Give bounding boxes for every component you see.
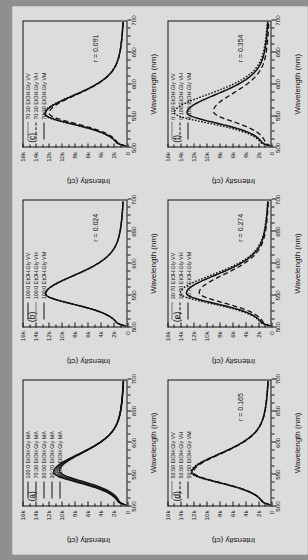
- y-tick-mark: [167, 502, 168, 507]
- y-tick-mark: [81, 144, 82, 147]
- legend-label: 50:50 EtOH:Gly VM: [185, 431, 192, 478]
- y-tick-label: 16k: [19, 331, 26, 341]
- panel-d-legend: 50:50 EtOH:Gly VV50:50 EtOH:Gly VH50:50 …: [169, 431, 192, 498]
- panel-c-xtick-labels: 500550600650700: [129, 20, 139, 147]
- y-tick-label: 14k: [32, 331, 39, 341]
- y-tick-mark: [23, 143, 24, 148]
- spectrum-curve: [46, 201, 126, 326]
- panel-b: Intensity (ct) 02k4k6k8k10k12k14k16k (b)…: [17, 191, 162, 370]
- spectrum-curve: [180, 201, 271, 326]
- y-tick-label: 16k: [164, 331, 171, 341]
- y-tick-mark: [29, 324, 30, 327]
- y-tick-mark: [187, 144, 188, 147]
- y-tick-label: 12k: [45, 331, 52, 341]
- y-tick-mark: [36, 143, 37, 148]
- legend-label: 100:0 EtOH:Gly MA: [25, 431, 32, 478]
- panel-a-legend: 100:0 EtOH:Gly MA70:30 EtOH:Gly MA50:50 …: [25, 431, 64, 498]
- panel-e-xlabel: Wavelength (nm): [293, 199, 302, 326]
- y-tick-mark: [42, 324, 43, 327]
- y-tick-mark: [180, 322, 181, 327]
- y-tick-mark: [258, 502, 259, 507]
- y-tick-mark: [174, 324, 175, 327]
- legend-label: 0:100 EtOH:Gly MA: [57, 431, 64, 478]
- panel-c-xlabel: Wavelength (nm): [148, 20, 157, 147]
- x-tick-label: 700: [129, 15, 136, 25]
- panel-f-legend: 0:100 EtOH:Gly VV0:100 EtOH:Gly VH0:100 …: [169, 72, 192, 139]
- y-tick-mark: [88, 322, 89, 327]
- y-tick-mark: [62, 143, 63, 148]
- panel-d-r-value: r = 0.165: [236, 393, 243, 421]
- y-tick-label: 8k: [216, 510, 223, 517]
- panel-f-ylabel: Intensity (ct): [173, 177, 293, 186]
- legend-item: 50:50 EtOH:Gly VM: [185, 431, 192, 498]
- y-tick-mark: [62, 502, 63, 507]
- legend-item: 30:70 EtOH:Gly VV: [169, 251, 176, 318]
- y-tick-label: 8k: [216, 331, 223, 338]
- y-tick-mark: [193, 322, 194, 327]
- legend-item: 50:50 EtOH:Gly VV: [169, 431, 176, 498]
- y-tick-mark: [94, 324, 95, 327]
- spectrum-curve: [55, 380, 126, 505]
- figure-grid: Intensity (ct) 02k4k6k8k10k12k14k16k (a)…: [13, 6, 304, 554]
- y-tick-mark: [94, 144, 95, 147]
- y-tick-label: 8k: [71, 331, 78, 338]
- y-tick-label: 16k: [19, 510, 26, 520]
- y-tick-mark: [75, 322, 76, 327]
- legend-label: 70:30 EtOH:Gly VV: [25, 73, 32, 119]
- legend-item: 0:100 EtOH:Gly VV: [169, 72, 176, 139]
- legend-item: 30:70 EtOH:Gly VM: [185, 251, 192, 318]
- panel-e-legend: 30:70 EtOH:Gly VV30:70 EtOH:Gly VH30:70 …: [169, 251, 192, 318]
- y-tick-mark: [174, 144, 175, 147]
- y-tick-label: 4k: [242, 510, 249, 517]
- legend-label: 50:50 EtOH:Gly MA: [41, 431, 48, 478]
- y-tick-mark: [258, 322, 259, 327]
- y-tick-label: 12k: [190, 151, 197, 161]
- panel-b-xtick-labels: 500550600650700: [129, 199, 139, 326]
- y-tick-mark: [107, 324, 108, 327]
- spectrum-curve: [199, 201, 271, 326]
- y-tick-mark: [101, 502, 102, 507]
- legend-label: 100:0 EtOH:Gly VM: [41, 251, 48, 298]
- panel-b-ylabel: Intensity (ct): [29, 356, 149, 365]
- x-tick-label: 700: [274, 374, 281, 384]
- panel-d-ylabel: Intensity (ct): [173, 536, 293, 545]
- y-tick-label: 2k: [110, 151, 117, 158]
- y-tick-mark: [206, 143, 207, 148]
- x-tick-label: 550: [274, 290, 281, 300]
- panel-f-xtick-labels: 500550600650700: [274, 20, 284, 147]
- y-tick-mark: [101, 143, 102, 148]
- panel-b-legend: 100:0 EtOH:Gly VV100:0 EtOH:Gly VH100:0 …: [25, 251, 48, 318]
- y-tick-label: 6k: [229, 331, 236, 338]
- y-tick-label: 12k: [190, 331, 197, 341]
- legend-label: 30:70 EtOH:Gly VH: [177, 252, 184, 299]
- spectrum-curve: [186, 201, 271, 326]
- y-tick-mark: [174, 503, 175, 506]
- y-tick-mark: [239, 144, 240, 147]
- y-tick-mark: [167, 143, 168, 148]
- x-tick-label: 650: [274, 47, 281, 57]
- legend-item: 70:30 EtOH:Gly VH: [33, 72, 40, 139]
- y-tick-mark: [219, 322, 220, 327]
- x-tick-label: 700: [129, 194, 136, 204]
- y-tick-mark: [252, 144, 253, 147]
- panel-f: Intensity (ct) 02k4k6k8k10k12k14k16k (f)…: [161, 12, 303, 191]
- y-tick-label: 8k: [71, 151, 78, 158]
- screenshot-frame: Intensity (ct) 02k4k6k8k10k12k14k16k (a)…: [0, 0, 303, 560]
- y-tick-label: 2k: [255, 151, 262, 158]
- panel-a: Intensity (ct) 02k4k6k8k10k12k14k16k (a)…: [17, 371, 162, 550]
- y-tick-mark: [245, 502, 246, 507]
- y-tick-mark: [272, 143, 273, 148]
- x-tick-label: 550: [129, 110, 136, 120]
- y-tick-mark: [187, 503, 188, 506]
- y-tick-mark: [180, 502, 181, 507]
- x-tick-label: 700: [274, 194, 281, 204]
- y-tick-mark: [252, 324, 253, 327]
- y-tick-mark: [29, 503, 30, 506]
- y-tick-mark: [127, 143, 128, 148]
- panel-a-xlabel: Wavelength (nm): [148, 379, 157, 506]
- y-tick-mark: [68, 144, 69, 147]
- y-tick-mark: [245, 143, 246, 148]
- y-tick-mark: [49, 502, 50, 507]
- y-tick-label: 2k: [110, 331, 117, 338]
- spectrum-curve: [187, 21, 271, 146]
